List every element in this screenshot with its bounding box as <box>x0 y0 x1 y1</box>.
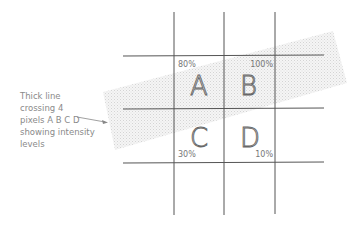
caption-line: pixels A B C D <box>20 114 110 126</box>
pixel-d-letter: D <box>240 123 260 153</box>
pixel-c-letter: C <box>190 123 208 153</box>
caption-line: showing intensity <box>20 126 110 138</box>
grid-horizontal-line-3 <box>123 162 324 163</box>
pixel-d-intensity: 10% <box>255 150 273 159</box>
thick-line-band <box>103 31 347 150</box>
caption: Thick line crossing 4 pixels A B C D sho… <box>20 90 110 150</box>
pixel-a-letter: A <box>190 71 208 101</box>
caption-line: Thick line <box>20 90 110 102</box>
pixel-c-intensity: 30% <box>178 150 196 159</box>
pixel-b-letter: B <box>240 71 257 101</box>
pixel-a-intensity: 80% <box>178 60 196 69</box>
caption-line: crossing 4 <box>20 102 110 114</box>
caption-line: levels <box>20 138 110 150</box>
pixel-b-intensity: 100% <box>250 60 273 69</box>
